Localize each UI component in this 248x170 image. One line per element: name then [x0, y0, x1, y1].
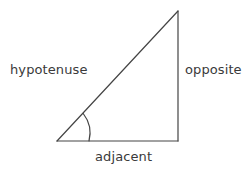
triangle-figure — [0, 0, 248, 170]
triangle-diagram: hypotenuse opposite adjacent — [0, 0, 248, 170]
adjacent-label: adjacent — [95, 150, 152, 163]
hypotenuse-label: hypotenuse — [10, 63, 87, 76]
opposite-label: opposite — [185, 63, 242, 76]
angle-arc — [83, 114, 90, 142]
